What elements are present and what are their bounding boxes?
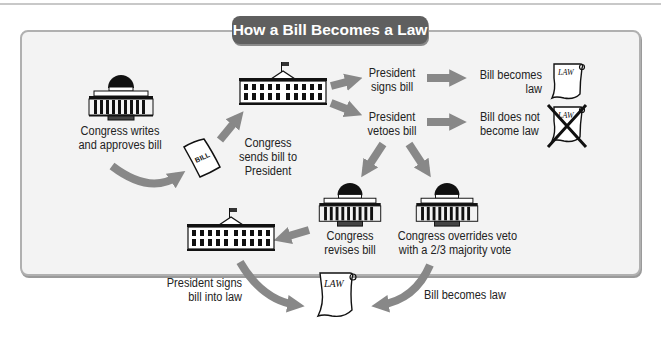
top-rule [0, 3, 661, 5]
congress-revises-label: Congress revises bill [317, 229, 384, 257]
diagram-title: How a Bill Becomes a Law [232, 16, 428, 44]
president-signs-label: President signs bill [361, 66, 423, 94]
crossed-law-scroll-icon: LAW [546, 103, 588, 149]
bill-scroll-icon: BILL [180, 137, 226, 179]
white-house-icon [185, 208, 277, 252]
capitol-icon [86, 72, 156, 122]
capitol-icon [412, 180, 482, 228]
svg-text:LAW: LAW [557, 68, 575, 77]
congress-writes-label: Congress writes and approves bill [72, 124, 169, 152]
svg-text:LAW: LAW [323, 278, 345, 289]
override-becomes-law-label: Bill becomes law [424, 288, 512, 302]
president-signs-into-law-label: President signs bill into law [161, 276, 242, 304]
bill-not-law-label: Bill does not become law [480, 110, 550, 138]
president-vetoes-label: President vetoes bill [361, 110, 423, 138]
sends-to-president-label: Congress sends bill to President [233, 136, 303, 178]
bill-becomes-law-label: Bill becomes law [470, 68, 542, 96]
capitol-icon [315, 180, 385, 228]
law-scroll-icon: LAW [546, 60, 588, 102]
congress-overrides-label: Congress overrides veto with a 2/3 major… [398, 229, 512, 257]
law-scroll-icon: LAW [312, 270, 360, 320]
white-house-icon [237, 62, 329, 106]
